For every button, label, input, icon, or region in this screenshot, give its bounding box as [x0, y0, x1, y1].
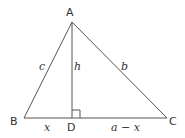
triangle-diagram: A B C D c h b x a − x [0, 0, 185, 138]
altitude-h-label: h [74, 60, 81, 73]
right-angle-marker [72, 110, 80, 118]
segment-a-minus-x-label: a − x [111, 121, 141, 134]
vertex-c-label: C [169, 115, 177, 128]
vertex-b-label: B [10, 115, 18, 128]
segment-x-label: x [44, 121, 51, 134]
vertex-a-label: A [66, 6, 74, 19]
side-b [72, 22, 167, 118]
side-c-label: c [39, 60, 45, 73]
side-c [24, 22, 72, 118]
side-b-label: b [121, 60, 128, 73]
vertex-d-label: D [67, 121, 75, 134]
